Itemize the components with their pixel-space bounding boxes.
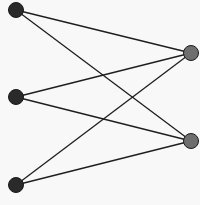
node-L2 xyxy=(9,90,24,105)
node-L1 xyxy=(9,3,24,18)
graph-svg xyxy=(0,0,200,205)
node-R2 xyxy=(184,134,199,149)
edge-L2-R1 xyxy=(16,53,191,97)
edge-L3-R2 xyxy=(16,141,191,185)
bipartite-graph-diagram xyxy=(0,0,200,205)
edge-L1-R1 xyxy=(16,10,191,53)
node-L3 xyxy=(9,178,24,193)
node-R1 xyxy=(184,46,199,61)
edge-L3-R1 xyxy=(16,53,191,185)
